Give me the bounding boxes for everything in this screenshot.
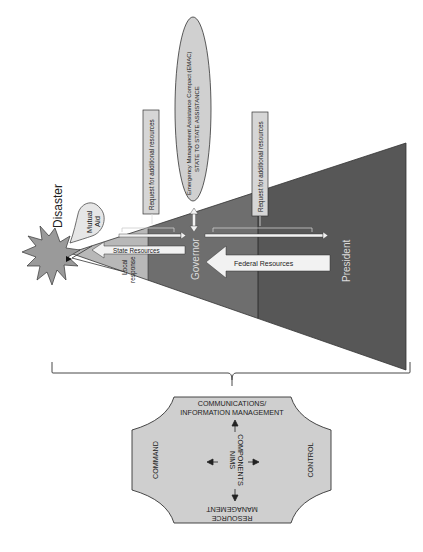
group-bracket bbox=[52, 362, 410, 386]
emac-line2: STATE TO STATE ASSISTANCE bbox=[194, 86, 200, 172]
mutual-aid-line2: Aid bbox=[93, 216, 102, 227]
nims-center-line2: COMPONENTS bbox=[236, 434, 245, 486]
svg-text:Request for additional resourc: Request for additional resources bbox=[148, 119, 156, 210]
svg-text:Request for additional resourc: Request for additional resources bbox=[257, 121, 265, 212]
svg-text:State Resources: State Resources bbox=[113, 247, 160, 254]
request-box-state: Request for additional resources bbox=[143, 110, 159, 224]
nims-center-line1: NIMS bbox=[228, 451, 237, 469]
local-response-line2: response bbox=[129, 256, 137, 283]
nims-bottom-line1: RESOURCE bbox=[211, 514, 252, 523]
nims-right-label: CONTROL bbox=[306, 442, 315, 477]
emac-line1: Emergency Management Assistance Compact … bbox=[186, 52, 192, 195]
nims-bottom-line2: MANAGEMENT bbox=[206, 505, 258, 514]
disaster-label: Disaster bbox=[51, 184, 65, 228]
nims-left-label: COMMAND bbox=[151, 441, 160, 479]
emac-bubble: Emergency Management Assistance Compact … bbox=[175, 17, 211, 201]
nims-top-line1: COMMUNICATIONS/ bbox=[198, 399, 267, 408]
disaster-burst-icon bbox=[22, 226, 80, 285]
nims-components-panel: COMMUNICATIONS/ INFORMATION MANAGEMENT C… bbox=[132, 397, 331, 523]
svg-text:Federal Resources: Federal Resources bbox=[234, 260, 294, 267]
president-label: President bbox=[341, 240, 352, 282]
governor-label: Governor bbox=[190, 238, 201, 280]
local-response-line1: Local bbox=[121, 259, 128, 275]
request-box-federal: Request for additional resources bbox=[252, 112, 268, 226]
nims-top-line2: INFORMATION MANAGEMENT bbox=[180, 408, 284, 417]
nims-response-diagram: Disaster Mutual Aid Local response Reque… bbox=[0, 0, 423, 552]
